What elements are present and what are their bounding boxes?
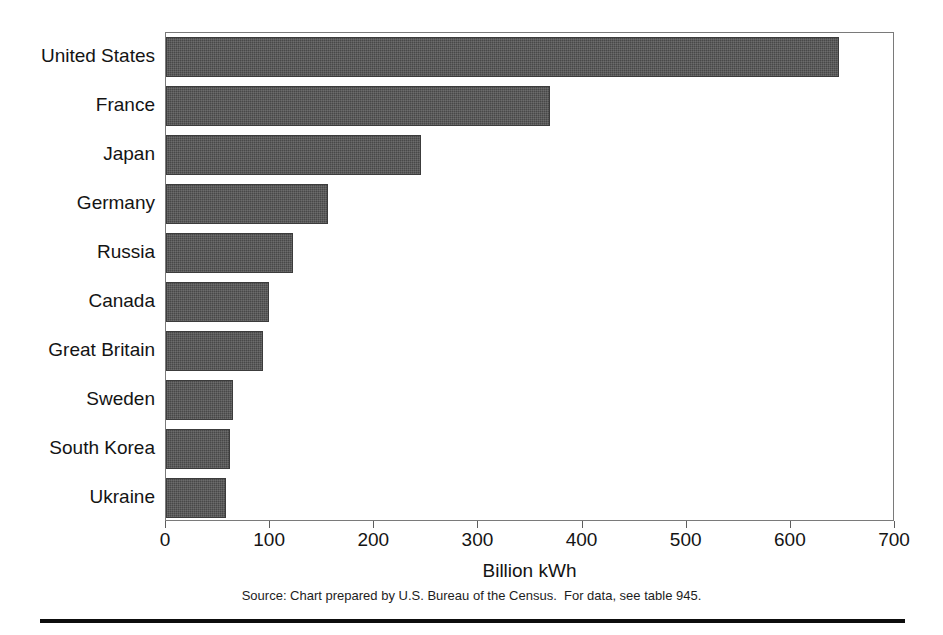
bar-row xyxy=(166,380,895,420)
bar-row xyxy=(166,282,895,322)
category-label: Japan xyxy=(0,144,155,163)
category-axis: United StatesFranceJapanGermanyRussiaCan… xyxy=(0,32,155,521)
category-label: Great Britain xyxy=(0,340,155,359)
x-tick-mark xyxy=(269,521,270,528)
x-tick-label: 400 xyxy=(566,530,598,550)
bar xyxy=(166,37,839,77)
x-tick-label: 300 xyxy=(462,530,494,550)
x-tick-mark xyxy=(477,521,478,528)
bar xyxy=(166,282,269,322)
bar xyxy=(166,135,421,175)
source-note: Source: Chart prepared by U.S. Bureau of… xyxy=(0,588,943,604)
x-tick-mark xyxy=(894,521,895,528)
category-label: United States xyxy=(0,46,155,65)
bar xyxy=(166,86,550,126)
x-axis-title: Billion kWh xyxy=(165,560,894,582)
x-tick-mark xyxy=(582,521,583,528)
bar-row xyxy=(166,233,895,273)
bar-row xyxy=(166,331,895,371)
bar xyxy=(166,478,226,518)
x-tick-label: 0 xyxy=(160,530,171,550)
x-tick-label: 500 xyxy=(670,530,702,550)
x-tick-label: 200 xyxy=(357,530,389,550)
x-tick-mark xyxy=(790,521,791,528)
x-tick-mark xyxy=(373,521,374,528)
bar-row xyxy=(166,86,895,126)
bottom-divider xyxy=(40,619,905,623)
bar xyxy=(166,380,233,420)
category-label: Sweden xyxy=(0,389,155,408)
x-tick-label: 100 xyxy=(253,530,285,550)
x-tick-label: 700 xyxy=(878,530,910,550)
category-label: Canada xyxy=(0,291,155,310)
category-label: Germany xyxy=(0,193,155,212)
bar xyxy=(166,233,293,273)
category-label: South Korea xyxy=(0,438,155,457)
bar-row xyxy=(166,135,895,175)
x-tick-label: 600 xyxy=(774,530,806,550)
x-tick-mark xyxy=(165,521,166,528)
category-label: Russia xyxy=(0,242,155,261)
category-label: Ukraine xyxy=(0,487,155,506)
bar-row xyxy=(166,429,895,469)
category-label: France xyxy=(0,95,155,114)
bar-row xyxy=(166,37,895,77)
bar xyxy=(166,184,328,224)
x-tick-mark xyxy=(686,521,687,528)
bar-chart-figure: United StatesFranceJapanGermanyRussiaCan… xyxy=(0,0,943,635)
bar xyxy=(166,331,263,371)
bar xyxy=(166,429,230,469)
bar-row xyxy=(166,478,895,518)
plot-area xyxy=(165,32,894,521)
bar-row xyxy=(166,184,895,224)
